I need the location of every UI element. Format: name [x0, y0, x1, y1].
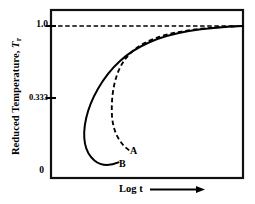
ytick-label-0333: 0.333	[0, 92, 48, 102]
plot-frame	[51, 10, 243, 178]
y-axis-symbol: T	[10, 41, 21, 48]
ytick-label-0: 0	[8, 165, 44, 175]
y-axis-subscript: r	[14, 38, 23, 41]
curve-label-a: A	[130, 145, 137, 156]
x-axis-title: Log t	[119, 183, 143, 194]
ytick-label-1: 1.0	[8, 19, 48, 29]
x-axis-arrow-icon	[150, 186, 205, 193]
ttt-diagram-figure: Reduced Temperature, Tr Log t 1.0 0.333 …	[0, 0, 255, 204]
curve-label-b: B	[119, 158, 126, 169]
